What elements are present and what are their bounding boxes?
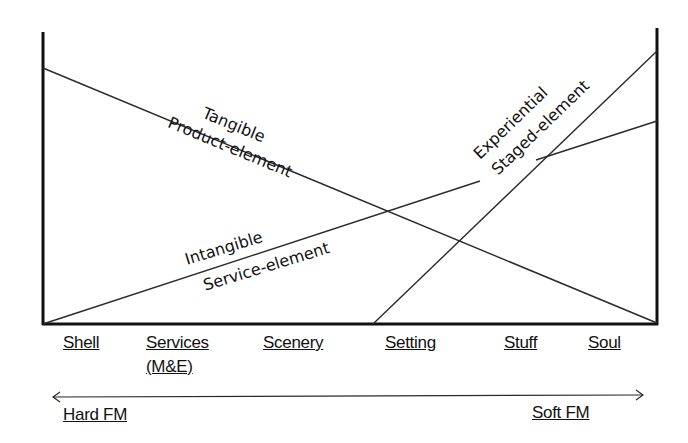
hard-fm-label: Hard FM xyxy=(63,405,127,425)
soft-fm-label: Soft FM xyxy=(532,403,589,423)
category-scenery: Scenery xyxy=(263,333,323,353)
tangible-label: Tangible Product-element xyxy=(165,93,303,182)
experiential-label: Experiential Staged-element xyxy=(470,59,593,180)
spectrum-arrow xyxy=(53,390,643,402)
category-shell: Shell xyxy=(63,333,99,353)
category-stuff: Stuff xyxy=(504,333,537,353)
experiential-staged-line xyxy=(373,51,657,324)
fm-spectrum-diagram: Tangible Product-element Intangible Serv… xyxy=(0,0,688,443)
category-soul: Soul xyxy=(588,333,621,353)
category-setting: Setting xyxy=(385,333,436,353)
category-services-me: (M&E) xyxy=(146,357,193,377)
intangible-service-line-a xyxy=(43,181,480,324)
category-services: Services xyxy=(146,333,209,353)
